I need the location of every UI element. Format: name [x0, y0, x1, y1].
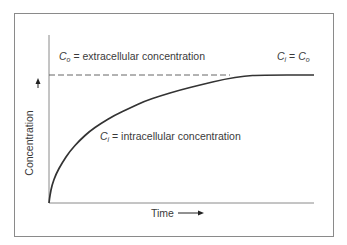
y-axis-label: Concentration [23, 110, 35, 175]
x-axis-label: Time [151, 208, 174, 219]
arrow-right-icon [198, 211, 204, 216]
arrow-up-icon [36, 78, 41, 84]
extracellular-label: Co = extracellular concentration [59, 51, 205, 63]
equilibrium-label: Ci = Co [277, 51, 310, 63]
intracellular-label: Ci = intracellular concentration [100, 131, 241, 143]
